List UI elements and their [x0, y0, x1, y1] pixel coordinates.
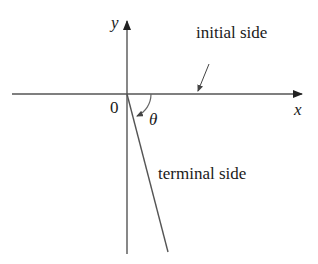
angle-theta-label: θ: [149, 111, 157, 128]
initial-side-pointer-arrow: [198, 64, 209, 91]
terminal-side-label: terminal side: [158, 165, 246, 182]
origin-label: 0: [110, 99, 119, 116]
x-axis-label: x: [294, 101, 302, 118]
initial-side-label: initial side: [196, 24, 267, 41]
diagram-canvas: y x 0 θ initial side terminal side: [0, 0, 318, 264]
diagram-graphics: [0, 0, 318, 264]
y-axis-label: y: [111, 14, 119, 31]
